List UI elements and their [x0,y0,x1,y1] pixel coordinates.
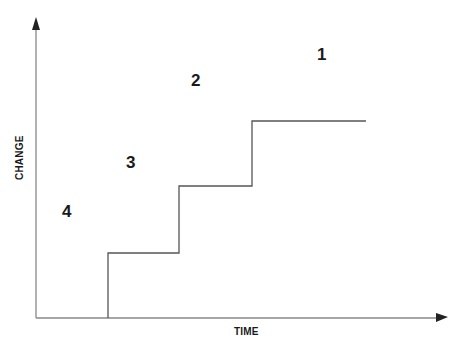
x-axis-label: TIME [234,326,259,337]
x-axis-arrow-icon [436,313,448,322]
region-label-4: 4 [62,202,71,222]
region-label-3: 3 [126,153,135,173]
region-label-1: 1 [317,45,326,65]
region-label-2: 2 [191,71,200,91]
step-diagram [0,0,460,353]
step-line [108,121,366,318]
y-axis-label: CHANGE [14,135,25,180]
y-axis-arrow-icon [32,17,40,30]
